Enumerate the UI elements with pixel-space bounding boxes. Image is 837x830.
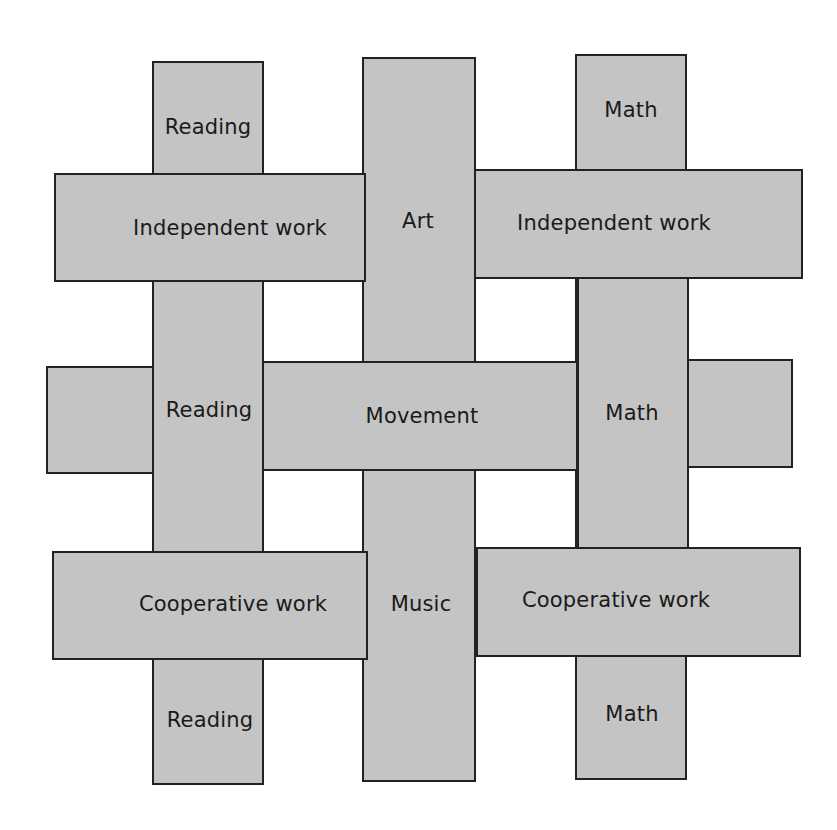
- label-reading-middle: Reading: [166, 398, 253, 422]
- label-independent-work-right: Independent work: [517, 211, 711, 235]
- strip-movement-left-end: [46, 366, 158, 474]
- label-music: Music: [391, 592, 452, 616]
- label-math-bottom: Math: [605, 702, 658, 726]
- label-cooperative-work-left: Cooperative work: [139, 592, 327, 616]
- label-reading-bottom: Reading: [167, 708, 254, 732]
- label-art: Art: [402, 209, 434, 233]
- label-math-middle: Math: [605, 401, 658, 425]
- strip-movement-right-end: [680, 359, 793, 468]
- label-independent-work-left: Independent work: [133, 216, 327, 240]
- label-cooperative-work-right: Cooperative work: [522, 588, 710, 612]
- label-movement: Movement: [366, 404, 479, 428]
- label-math-top: Math: [604, 98, 657, 122]
- label-reading-top: Reading: [165, 115, 252, 139]
